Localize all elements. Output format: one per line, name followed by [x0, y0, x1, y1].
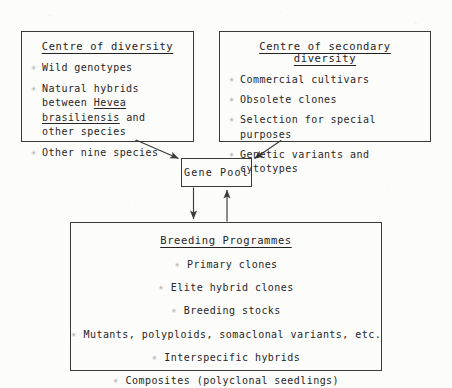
bullet-icon: ✳ — [229, 93, 240, 106]
centre-of-diversity-list: ✳ Wild genotypes ✳ Natural hybrids betwe… — [31, 61, 184, 160]
bullet-icon: ✳ — [31, 61, 42, 74]
centre-of-diversity-box: Centre of diversity ✳ Wild genotypes ✳ N… — [21, 31, 194, 142]
breeding-programmes-box: Breeding Programmes ✳ Primary clones ✳ E… — [70, 222, 382, 371]
centre-of-secondary-diversity-title: Centre of secondary diversity — [229, 40, 421, 64]
list-item-label: Obsolete clones — [240, 93, 421, 107]
centre-of-secondary-diversity-list: ✳ Commercial cultivars ✳ Obsolete clones… — [229, 73, 421, 176]
bullet-icon: ✳ — [229, 73, 240, 86]
bullet-icon: ✳ — [171, 304, 177, 317]
bullet-icon: ✳ — [158, 281, 164, 294]
bullet-icon: ✳ — [229, 113, 240, 126]
list-item-label: Composites (polyclonal seedlings) — [126, 374, 340, 388]
list-item: ✳ Interspecific hybrids — [77, 351, 375, 365]
list-item: ✳ Composites (polyclonal seedlings) — [77, 374, 375, 388]
gene-pool-label: Gene Pool — [184, 167, 249, 178]
bullet-icon: ✳ — [152, 351, 158, 364]
list-item: ✳ Breeding stocks — [77, 304, 375, 318]
list-item-label: Wild genotypes — [42, 61, 184, 75]
breeding-programmes-list: ✳ Primary clones ✳ Elite hybrid clones ✳… — [77, 258, 375, 388]
list-item: ✳ Obsolete clones — [229, 93, 421, 107]
list-item-label: Interspecific hybrids — [164, 351, 300, 365]
list-item-label: Selection for special purposes — [240, 113, 421, 141]
list-item-label: Natural hybrids between Hevea brasiliens… — [42, 82, 184, 139]
bullet-icon: ✳ — [113, 374, 119, 387]
list-item-label: Commercial cultivars — [240, 73, 421, 87]
bullet-icon: ✳ — [71, 328, 77, 341]
list-item-label: Primary clones — [187, 258, 278, 272]
list-item: ✳ Commercial cultivars — [229, 73, 421, 87]
list-item: ✳ Other nine species — [31, 146, 184, 160]
bullet-icon: ✳ — [31, 82, 42, 95]
centre-of-diversity-title: Centre of diversity — [31, 40, 184, 52]
list-item: ✳ Selection for special purposes — [229, 113, 421, 141]
breeding-programmes-title: Breeding Programmes — [77, 234, 375, 246]
bullet-icon: ✳ — [174, 258, 180, 271]
breeding-diagram: Centre of diversity ✳ Wild genotypes ✳ N… — [0, 0, 452, 388]
gene-pool-box: Gene Pool — [181, 158, 252, 187]
list-item: ✳ Natural hybrids between Hevea brasilie… — [31, 82, 184, 139]
list-item-label: Other nine species — [42, 146, 184, 160]
list-item-label: Mutants, polyploids, somaclonal variants… — [83, 328, 381, 342]
list-item: ✳ Elite hybrid clones — [77, 281, 375, 295]
list-item: ✳ Primary clones — [77, 258, 375, 272]
list-item-label: Breeding stocks — [184, 304, 281, 318]
list-item: ✳ Wild genotypes — [31, 61, 184, 75]
bullet-icon: ✳ — [31, 146, 42, 159]
centre-of-secondary-diversity-box: Centre of secondary diversity ✳ Commerci… — [219, 31, 431, 142]
list-item: ✳ Mutants, polyploids, somaclonal varian… — [77, 328, 375, 342]
list-item-label: Genetic variants and cytotypes — [240, 148, 421, 176]
list-item-label: Elite hybrid clones — [171, 281, 294, 295]
list-item: ✳ Genetic variants and cytotypes — [229, 148, 421, 176]
